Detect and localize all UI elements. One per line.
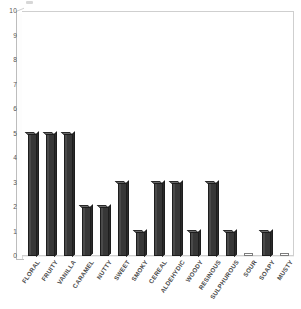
bar-slot xyxy=(280,11,289,256)
bar-slot xyxy=(82,11,91,256)
bar-slot xyxy=(64,11,73,256)
bar-slot xyxy=(100,11,109,256)
bar-slot xyxy=(118,11,127,256)
bar-slot xyxy=(28,11,37,256)
y-gridline xyxy=(23,256,294,257)
y-axis-tick-label: 9 xyxy=(13,32,17,39)
bar xyxy=(280,253,289,256)
bar-slot xyxy=(136,11,145,256)
bar-slot xyxy=(208,11,217,256)
bar-slot xyxy=(190,11,199,256)
y-axis-tick-label: 5 xyxy=(13,130,17,137)
bar xyxy=(226,232,235,257)
bar xyxy=(64,134,73,257)
bar xyxy=(208,183,217,257)
bar-slot xyxy=(46,11,55,256)
bar xyxy=(28,134,37,257)
bar xyxy=(136,232,145,257)
bars-container xyxy=(23,11,294,256)
y-axis: 012345678910 xyxy=(0,11,22,256)
y-axis-tick-label: 1 xyxy=(13,228,17,235)
x-axis-labels: FLORALFRUITYVANILLACARAMELNUTTYSWEETSMOK… xyxy=(23,259,294,309)
y-axis-tick-label: 3 xyxy=(13,179,17,186)
bar xyxy=(190,232,199,257)
bar xyxy=(244,253,253,256)
y-axis-tick-label: 10 xyxy=(9,8,17,15)
bar-chart: 012345678910 FLORALFRUITYVANILLACARAMELN… xyxy=(0,0,301,309)
y-axis-tick-label: 0 xyxy=(13,253,17,260)
bar-slot xyxy=(262,11,271,256)
bar xyxy=(100,207,109,256)
y-axis-tick-label: 8 xyxy=(13,57,17,64)
bar-slot xyxy=(226,11,235,256)
x-axis-tick-label: FLORAL xyxy=(21,259,41,285)
bar-slot xyxy=(154,11,163,256)
scan-artifact-speck xyxy=(26,1,33,4)
bar xyxy=(154,183,163,257)
bar xyxy=(118,183,127,257)
bar xyxy=(46,134,55,257)
y-axis-tick-label: 6 xyxy=(13,106,17,113)
bar-slot xyxy=(244,11,253,256)
y-axis-tick-label: 7 xyxy=(13,81,17,88)
x-axis-tick-label: SOUR xyxy=(242,259,258,278)
bar xyxy=(82,207,91,256)
y-axis-tick-label: 2 xyxy=(13,204,17,211)
bar xyxy=(262,232,271,257)
x-axis-tick-label: SOAPY xyxy=(258,259,276,281)
bar-slot xyxy=(172,11,181,256)
bar xyxy=(172,183,181,257)
y-axis-tick-label: 4 xyxy=(13,155,17,162)
x-axis-tick-label: MUSTY xyxy=(276,259,294,281)
